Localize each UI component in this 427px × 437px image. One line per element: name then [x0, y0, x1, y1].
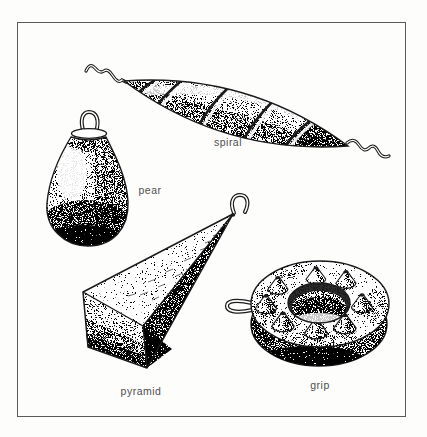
- label-pyramid: pyramid: [121, 385, 162, 397]
- figure-frame: [17, 22, 406, 417]
- label-spiral: spiral: [214, 136, 242, 148]
- label-grip: grip: [310, 379, 330, 391]
- label-pear: pear: [138, 184, 161, 196]
